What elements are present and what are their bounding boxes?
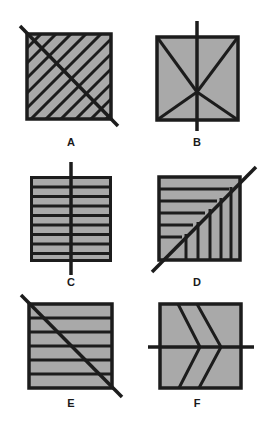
label-d: D xyxy=(193,277,201,288)
figure-c xyxy=(30,162,112,275)
figure-f xyxy=(148,304,254,388)
label-f: F xyxy=(194,398,201,409)
label-e: E xyxy=(67,398,74,409)
label-a: A xyxy=(67,137,75,148)
figure-diagram xyxy=(0,0,271,431)
label-c: C xyxy=(67,277,75,288)
figure-e xyxy=(21,295,122,397)
figure-b xyxy=(157,21,238,131)
figure-d xyxy=(152,167,256,272)
label-b: B xyxy=(193,137,201,148)
